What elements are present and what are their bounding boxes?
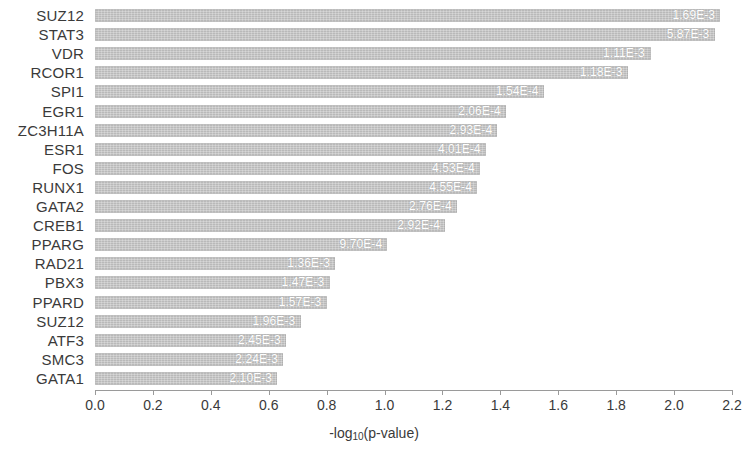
bar [95, 28, 715, 41]
category-label: VDR [52, 46, 84, 61]
x-axis-tick-label: 0.0 [85, 397, 104, 413]
category-label: STAT3 [39, 27, 84, 42]
x-axis-tick [500, 390, 501, 395]
category-label: RCOR1 [30, 65, 84, 80]
x-axis-tick-label: 0.4 [201, 397, 220, 413]
x-axis-title: -log10(p-value) [0, 425, 748, 442]
bar-value-label: 2.10E-3 [229, 372, 272, 385]
bar-value-label: 4.55E-4 [429, 181, 472, 194]
x-axis-title-tail: (p-value) [364, 425, 419, 441]
x-axis-tick-label: 0.6 [259, 397, 278, 413]
category-label: SUZ12 [36, 8, 84, 23]
category-label: ZC3H11A [18, 123, 84, 138]
x-axis-tick [616, 390, 617, 395]
x-axis-tick-label: 1.2 [433, 397, 452, 413]
bar [95, 66, 628, 79]
x-axis-line [95, 390, 732, 391]
bar-value-label: 1.11E-3 [603, 47, 645, 60]
x-axis-title-subscript: 10 [352, 431, 363, 442]
x-axis-tick [211, 390, 212, 395]
x-axis-tick-label: 2.0 [664, 397, 683, 413]
bar-value-label: 5.87E-3 [667, 28, 710, 41]
bar-value-label: 1.47E-3 [282, 276, 325, 289]
bar-value-label: 1.18E-3 [580, 66, 623, 79]
category-label: PPARD [32, 295, 84, 310]
category-label: EGR1 [42, 104, 84, 119]
bar-value-label: 2.76E-4 [409, 200, 452, 213]
bar-value-label: 1.69E-3 [672, 9, 715, 22]
bar [95, 47, 651, 60]
bar-value-label: 2.93E-4 [449, 124, 492, 137]
bar-value-label: 2.24E-3 [235, 353, 278, 366]
bar-value-label: 4.01E-4 [438, 143, 481, 156]
x-axis-tick-label: 1.4 [491, 397, 510, 413]
x-axis-tick [95, 390, 96, 395]
category-label: CREB1 [33, 218, 84, 233]
x-axis-tick [153, 390, 154, 395]
x-axis-tick-label: 0.8 [317, 397, 336, 413]
category-label: PPARG [32, 237, 84, 252]
x-axis-tick-label: 1.8 [606, 397, 625, 413]
category-label: SUZ12 [36, 314, 84, 329]
x-axis-tick-label: 2.2 [722, 397, 741, 413]
x-axis-tick-label: 1.0 [375, 397, 394, 413]
x-axis-tick-label: 0.2 [143, 397, 162, 413]
category-axis-labels: SUZ12STAT3VDRRCOR1SPI1EGR1ZC3H11AESR1FOS… [0, 6, 88, 388]
category-label: RUNX1 [32, 180, 84, 195]
category-label: RAD21 [35, 256, 84, 271]
category-label: SMC3 [42, 352, 84, 367]
bar-value-label: 2.92E-4 [397, 219, 440, 232]
x-axis-tick [385, 390, 386, 395]
bar-value-label: 2.45E-3 [238, 334, 281, 347]
category-label: GATA2 [36, 199, 84, 214]
bar-value-label: 2.06E-4 [458, 105, 501, 118]
bar [95, 181, 477, 194]
bar [95, 200, 457, 213]
plot-area: 1.69E-35.87E-31.11E-31.18E-31.54E-42.06E… [95, 6, 732, 388]
bar [95, 219, 445, 232]
category-label: FOS [53, 161, 84, 176]
category-label: ATF3 [48, 333, 84, 348]
bar [95, 162, 480, 175]
x-axis-tick [269, 390, 270, 395]
bar-value-label: 9.70E-4 [339, 238, 382, 251]
x-axis-tick [732, 390, 733, 395]
category-label: SPI1 [51, 84, 84, 99]
bar [95, 85, 544, 98]
bar-value-label: 1.96E-3 [253, 315, 296, 328]
x-axis-title-main: -log [329, 425, 352, 441]
bar [95, 143, 486, 156]
category-label: PBX3 [45, 275, 84, 290]
x-axis-tick [327, 390, 328, 395]
bar-value-label: 1.54E-4 [496, 85, 539, 98]
bar-chart: SUZ12STAT3VDRRCOR1SPI1EGR1ZC3H11AESR1FOS… [0, 0, 748, 449]
x-axis-tick-label: 1.6 [549, 397, 568, 413]
category-label: GATA1 [36, 371, 84, 386]
bar-value-label: 4.53E-4 [432, 162, 475, 175]
bar-value-label: 1.57E-3 [279, 296, 322, 309]
x-axis-tick [442, 390, 443, 395]
bar-value-label: 1.36E-3 [287, 257, 330, 270]
bar [95, 105, 506, 118]
x-axis-tick [674, 390, 675, 395]
x-axis-tick [558, 390, 559, 395]
bar [95, 124, 497, 137]
category-label: ESR1 [44, 142, 84, 157]
bar [95, 9, 720, 22]
